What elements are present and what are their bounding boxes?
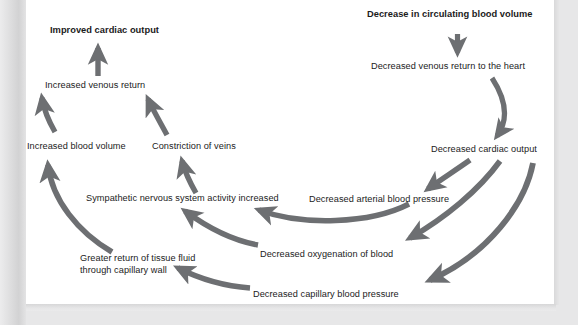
- arrow-sympathetic-to-constriction: [182, 161, 196, 193]
- node-greater-return-line-2: through capillary wall: [80, 265, 167, 275]
- arrow-tissue-fluid-to-blood-volume: [48, 165, 112, 252]
- node-decrease-in-circulating-blood-volume: Decrease in circulating blood volume: [367, 9, 533, 21]
- node-increased-blood-volume: Increased blood volume: [27, 141, 126, 153]
- node-decreased-capillary-blood-pressure: Decreased capillary blood pressure: [253, 289, 399, 301]
- node-decreased-venous-return-to-the-heart: Decreased venous return to the heart: [371, 61, 525, 73]
- arrow-venous-return-to-cardiac-output: [492, 78, 505, 136]
- node-improved-cardiac-output: Improved cardiac output: [50, 25, 159, 37]
- node-increased-venous-return: Increased venous return: [45, 80, 145, 92]
- arrow-arterial-pressure-to-sympathetic: [259, 204, 409, 221]
- node-decreased-arterial-blood-pressure: Decreased arterial blood pressure: [309, 194, 449, 206]
- node-sympathetic-nervous-system-activity-increased: Sympathetic nervous system activity incr…: [86, 193, 279, 205]
- arrow-constriction-to-venous-return: [148, 99, 167, 135]
- node-decreased-cardiac-output: Decreased cardiac output: [431, 144, 537, 156]
- node-greater-return-line-1: Greater return of tissue fluid: [80, 253, 195, 263]
- arrow-cardiac-output-to-arterial-pressure: [428, 160, 470, 189]
- node-decreased-oxygenation-of-blood: Decreased oxygenation of blood: [260, 249, 393, 261]
- arrow-blood-volume-to-venous-return: [42, 98, 55, 132]
- arrow-oxygenation-to-sympathetic: [185, 211, 258, 245]
- diagram-screenshot: Improved cardiac output Increased venous…: [0, 0, 578, 325]
- node-constriction-of-veins: Constriction of veins: [152, 141, 236, 153]
- node-greater-return-of-tissue-fluid: Greater return of tissue fluid through c…: [80, 252, 220, 277]
